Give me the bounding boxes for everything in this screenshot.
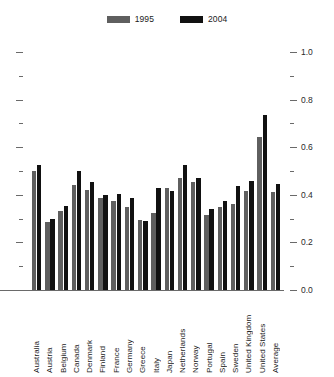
bar-2004 <box>77 171 81 290</box>
bar-1995 <box>204 215 208 290</box>
axis-tick-label: 1.0 <box>301 47 313 57</box>
axis-tick-major <box>16 147 23 148</box>
legend-swatch-2004 <box>180 16 203 23</box>
legend-item-1995: 1995 <box>107 14 154 24</box>
category-label: Austria <box>43 293 56 373</box>
category-label: Japan <box>163 293 176 373</box>
category-label: Netherlands <box>176 293 189 373</box>
bar-2004 <box>170 191 174 290</box>
axis-tick-major <box>290 100 297 101</box>
bar-group <box>43 52 56 290</box>
bar-1995 <box>85 190 89 290</box>
axis-tick-minor <box>19 171 23 172</box>
axis-tick-label: 0.0 <box>301 285 313 295</box>
legend-label-1995: 1995 <box>135 14 154 24</box>
bar-2004 <box>90 182 94 290</box>
bar-1995 <box>231 204 235 290</box>
bar-1995 <box>32 171 36 290</box>
axis-tick-label: 0.6 <box>301 142 313 152</box>
bar-group <box>110 52 123 290</box>
bar-2004 <box>236 186 240 290</box>
y-axis-left <box>22 52 23 290</box>
bar-group <box>202 52 215 290</box>
bar-2004 <box>156 188 160 290</box>
bar-group <box>189 52 202 290</box>
bar-group <box>149 52 162 290</box>
axis-tick-minor <box>290 76 294 77</box>
bar-group <box>176 52 189 290</box>
bar-chart: 1995 2004 0.00.20.40.60.81.0 AustraliaAu… <box>0 0 334 377</box>
bar-group <box>269 52 282 290</box>
axis-tick-major <box>16 100 23 101</box>
category-label: United Kingdom <box>242 293 255 373</box>
axis-tick-label: 0.4 <box>301 190 313 200</box>
axis-tick-major <box>290 195 297 196</box>
legend-swatch-1995 <box>107 16 130 23</box>
bar-1995 <box>125 207 129 290</box>
category-label: France <box>110 293 123 373</box>
bar-1995 <box>151 213 155 290</box>
bar-1995 <box>98 198 102 290</box>
bar-group <box>229 52 242 290</box>
bar-group <box>216 52 229 290</box>
category-label: Denmark <box>83 293 96 373</box>
axis-tick-minor <box>290 266 294 267</box>
bar-1995 <box>72 185 76 290</box>
legend-item-2004: 2004 <box>180 14 227 24</box>
bar-group <box>256 52 269 290</box>
x-axis-baseline <box>0 290 284 291</box>
chart-legend: 1995 2004 <box>0 14 334 24</box>
bar-group <box>123 52 136 290</box>
bar-group <box>163 52 176 290</box>
bar-group <box>57 52 70 290</box>
bar-1995 <box>165 188 169 290</box>
bar-2004 <box>50 219 54 290</box>
bar-1995 <box>271 192 275 290</box>
bar-1995 <box>191 182 195 290</box>
legend-label-2004: 2004 <box>208 14 227 24</box>
bar-2004 <box>130 198 134 290</box>
category-label: Average <box>269 293 282 373</box>
x-axis-categories: AustraliaAustriaBelgiumCanadaDenmarkFinl… <box>30 293 282 373</box>
bar-2004 <box>263 115 267 290</box>
axis-tick-label: 0.8 <box>301 95 313 105</box>
axis-tick-minor <box>19 123 23 124</box>
bar-2004 <box>117 194 121 290</box>
axis-tick-minor <box>290 123 294 124</box>
bar-group <box>136 52 149 290</box>
category-label: Norway <box>189 293 202 373</box>
bar-1995 <box>218 207 222 290</box>
category-label: Australia <box>30 293 43 373</box>
bar-1995 <box>138 220 142 290</box>
bar-1995 <box>58 211 62 290</box>
bar-groups <box>30 52 282 290</box>
axis-tick-major <box>290 147 297 148</box>
bar-2004 <box>37 165 41 290</box>
bar-2004 <box>209 209 213 290</box>
axis-tick-major <box>16 242 23 243</box>
bar-2004 <box>196 178 200 290</box>
bar-2004 <box>276 184 280 290</box>
axis-tick-minor <box>19 266 23 267</box>
bar-group <box>83 52 96 290</box>
bar-group <box>242 52 255 290</box>
bar-2004 <box>183 165 187 290</box>
category-label: Sweden <box>229 293 242 373</box>
y-axis-right: 0.00.20.40.60.81.0 <box>290 52 291 290</box>
axis-tick-minor <box>19 219 23 220</box>
category-label: United States <box>256 293 269 373</box>
bar-group <box>96 52 109 290</box>
axis-tick-label: 0.2 <box>301 237 313 247</box>
axis-tick-major <box>290 242 297 243</box>
axis-tick-minor <box>19 76 23 77</box>
bar-2004 <box>143 221 147 290</box>
category-label: Portugal <box>202 293 215 373</box>
bar-2004 <box>64 206 68 290</box>
bar-1995 <box>45 222 49 290</box>
axis-tick-major <box>290 52 297 53</box>
bar-1995 <box>244 191 248 290</box>
category-label: Spain <box>216 293 229 373</box>
bar-2004 <box>249 181 253 290</box>
axis-tick-major <box>290 290 297 291</box>
axis-tick-major <box>16 52 23 53</box>
